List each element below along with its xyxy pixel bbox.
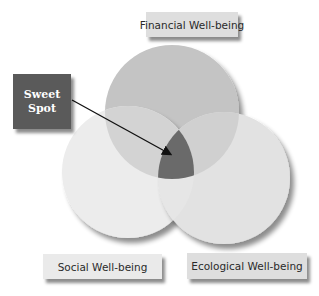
- venn-diagram: [0, 0, 319, 296]
- label-ecological-text: Ecological Well-being: [191, 260, 302, 272]
- label-social-text: Social Well-being: [58, 261, 148, 273]
- sweet-spot-line2: Spot: [28, 102, 56, 116]
- label-social: Social Well-being: [43, 254, 162, 279]
- sweet-spot-callout: Sweet Spot: [13, 74, 71, 129]
- label-financial: Financial Well-being: [146, 12, 238, 37]
- label-ecological: Ecological Well-being: [187, 253, 307, 279]
- sweet-spot-line1: Sweet: [24, 88, 61, 102]
- label-financial-text: Financial Well-being: [140, 19, 245, 31]
